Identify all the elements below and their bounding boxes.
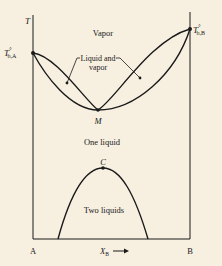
liquid-vapor-label-2: vapor [89,63,108,72]
critical-label: C [100,157,106,167]
left-end-label: A [30,246,37,256]
dew-curve [33,29,190,110]
leader-right-dot [139,77,142,80]
tbb-label: T°b,B [193,24,205,36]
solubility-dome [58,168,148,239]
x-axis-arrow-icon [124,249,129,254]
tba-label: T°b,A [4,47,17,59]
vapor-region-label: Vapor [93,28,113,38]
two-liquids-label: Two liquids [84,205,124,215]
x-axis-label: XB [99,246,109,257]
liquid-vapor-label-1: Liquid and [81,54,116,63]
right-end-label: B [187,246,193,256]
y-axis-label: T [25,16,31,26]
azeotrope-label: M [93,116,102,126]
phase-diagram: T T°b,A T°b,B Vapor Liquid and vapor M O… [0,0,222,266]
tbb-point [188,27,192,31]
azeotrope-point [96,108,100,112]
one-liquid-label: One liquid [84,137,121,147]
tba-point [31,51,35,55]
leader-left-dot [66,82,69,85]
